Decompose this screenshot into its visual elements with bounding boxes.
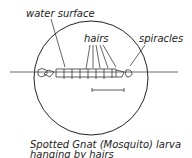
larva-body (38, 69, 132, 80)
water-surface-label: water surface (26, 9, 95, 19)
spiracles-leader (130, 45, 145, 66)
spiracles-label: spiracles (139, 34, 183, 44)
leader-lines (51, 19, 145, 69)
hairs-leader-1 (86, 45, 90, 69)
larva-diagram (0, 0, 192, 158)
water-surface-leader (51, 19, 65, 67)
hairs-label: hairs (84, 34, 109, 44)
caption-line-2: hanging by hairs (30, 150, 114, 158)
scale-bar (92, 88, 124, 92)
